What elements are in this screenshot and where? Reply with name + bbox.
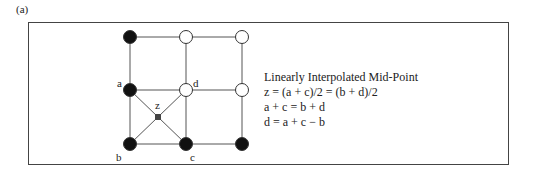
label-a: a [117,77,122,89]
equation-line: a + c = b + d [264,100,418,115]
equation-line: d = a + c − b [264,115,418,130]
node-black [236,138,249,151]
node-white [236,31,249,44]
label-d: d [193,77,199,89]
label-b: b [116,151,122,163]
node-b [124,138,137,151]
label-z: z [155,99,160,111]
node-d [180,84,193,97]
node-c [180,138,193,151]
equation-line: z = (a + c)/2 = (b + d)/2 [264,85,418,100]
equations-title: Linearly Interpolated Mid-Point [264,70,418,85]
midpoint-z [155,114,161,120]
node-a [124,84,137,97]
node-black [124,31,137,44]
equations-block: Linearly Interpolated Mid-Point z = (a +… [264,70,418,130]
node-white [236,84,249,97]
node-white [180,31,193,44]
label-c: c [190,151,195,163]
